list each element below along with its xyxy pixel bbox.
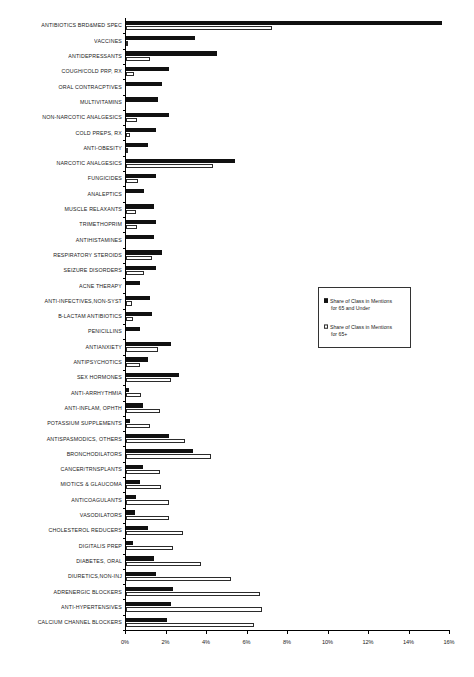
category-tick xyxy=(123,462,125,463)
legend-label-line1: Share of Class in Mentions xyxy=(330,323,392,330)
category-label: ANTIANXIETY xyxy=(2,343,122,350)
category-tick xyxy=(123,217,125,218)
bar-under65 xyxy=(126,113,169,117)
category-label: TRIMETHOPRIM xyxy=(2,221,122,228)
category-tick xyxy=(123,186,125,187)
category-tick xyxy=(123,599,125,600)
bar-under65 xyxy=(126,21,442,25)
bar-under65 xyxy=(126,67,169,71)
bar-over65 xyxy=(126,72,134,76)
category-tick xyxy=(123,370,125,371)
bar-over65 xyxy=(126,26,272,30)
category-tick xyxy=(123,171,125,172)
bar-over65 xyxy=(126,577,231,581)
category-tick xyxy=(123,615,125,616)
category-tick xyxy=(123,584,125,585)
category-label: ANTIDEPRESSANTS xyxy=(2,53,122,60)
category-tick xyxy=(123,33,125,34)
category-tick xyxy=(123,156,125,157)
category-label: ANTICOAGULANTS xyxy=(2,496,122,503)
bar-over65 xyxy=(126,179,138,183)
category-label: ANTI-ARRHYTHMIA xyxy=(2,389,122,396)
x-axis-tick xyxy=(125,630,126,634)
bar-under65 xyxy=(126,357,148,361)
x-axis-tick-label: 16% xyxy=(437,639,461,647)
category-label: ANTIBIOTICS BRD&MED SPEC xyxy=(2,22,122,29)
category-label: FUNGICIDES xyxy=(2,175,122,182)
x-axis-tick-label: 14% xyxy=(397,639,421,647)
bar-over65 xyxy=(126,41,128,45)
category-label: ANTI-INFLAM, OPHTH xyxy=(2,405,122,412)
category-tick xyxy=(123,263,125,264)
category-label: BRONCHODILATORS xyxy=(2,450,122,457)
bar-under65 xyxy=(126,296,150,300)
category-label: ANTIHISTAMINES xyxy=(2,236,122,243)
category-tick xyxy=(123,202,125,203)
bar-under65 xyxy=(126,480,140,484)
bar-over65 xyxy=(126,531,183,535)
x-axis-tick xyxy=(409,630,410,634)
bar-under65 xyxy=(126,250,162,254)
x-axis-tick-label: 2% xyxy=(154,639,178,647)
bar-under65 xyxy=(126,342,171,346)
legend-swatch-hollow-icon xyxy=(324,324,328,328)
bar-under65 xyxy=(126,36,195,40)
category-tick xyxy=(123,538,125,539)
bar-under65 xyxy=(126,572,156,576)
bar-over65 xyxy=(126,133,130,137)
category-label: DIURETICS,NON-INJ xyxy=(2,573,122,580)
bar-under65 xyxy=(126,602,171,606)
category-tick xyxy=(123,79,125,80)
bar-over65 xyxy=(126,118,137,122)
category-tick xyxy=(123,309,125,310)
category-tick xyxy=(123,401,125,402)
category-tick xyxy=(123,508,125,509)
bar-under65 xyxy=(126,495,136,499)
bar-over65 xyxy=(126,470,160,474)
bar-over65 xyxy=(126,378,171,382)
bar-over65 xyxy=(126,592,260,596)
category-label: ANTIPSYCHOTICS xyxy=(2,359,122,366)
category-tick xyxy=(123,355,125,356)
category-label: B-LACTAM ANTIBIOTICS xyxy=(2,313,122,320)
bar-over65 xyxy=(126,393,141,397)
category-label: CALCIUM CHANNEL BLOCKERS xyxy=(2,619,122,626)
bar-under65 xyxy=(126,82,162,86)
x-axis-tick-label: 10% xyxy=(316,639,340,647)
bar-over65 xyxy=(126,623,254,627)
legend-label-line2: for 65+ xyxy=(331,331,410,339)
category-label: DIGITALIS PREP xyxy=(2,542,122,549)
category-tick xyxy=(123,293,125,294)
legend-entry: Share of Class in Mentionsfor 65+ xyxy=(324,323,410,338)
category-tick xyxy=(123,385,125,386)
bar-over65 xyxy=(126,363,140,367)
category-label: ANTI-HYPERTENSIVES xyxy=(2,603,122,610)
category-label: RESPIRATORY STEROIDS xyxy=(2,252,122,259)
bar-under65 xyxy=(126,204,154,208)
x-axis-tick-label: 12% xyxy=(356,639,380,647)
category-tick xyxy=(123,95,125,96)
legend-entry: Share of Class in Mentionsfor 65 and Und… xyxy=(324,297,410,312)
bar-over65 xyxy=(126,607,262,611)
bar-under65 xyxy=(126,526,148,530)
bar-under65 xyxy=(126,587,173,591)
category-axis-labels: ANTIBIOTICS BRD&MED SPECVACCINESANTIDEPR… xyxy=(0,18,122,630)
bar-under65 xyxy=(126,510,135,514)
legend-label-line2: for 65 and Under xyxy=(331,305,410,313)
y-axis-line xyxy=(125,18,126,630)
bar-under65 xyxy=(126,388,129,392)
bar-over65 xyxy=(126,546,173,550)
category-tick xyxy=(123,248,125,249)
category-label: MIOTICS & GLAUCOMA xyxy=(2,481,122,488)
bar-over65 xyxy=(126,57,150,61)
x-axis-tick-label: 0% xyxy=(113,639,137,647)
bar-under65 xyxy=(126,465,143,469)
bar-over65 xyxy=(126,256,152,260)
bar-over65 xyxy=(126,409,160,413)
bar-under65 xyxy=(126,419,130,423)
category-tick xyxy=(123,232,125,233)
category-label: COUGH/COLD PRP, RX xyxy=(2,68,122,75)
category-label: ANALEPTICS xyxy=(2,190,122,197)
bar-over65 xyxy=(126,424,150,428)
bar-over65 xyxy=(126,516,169,520)
